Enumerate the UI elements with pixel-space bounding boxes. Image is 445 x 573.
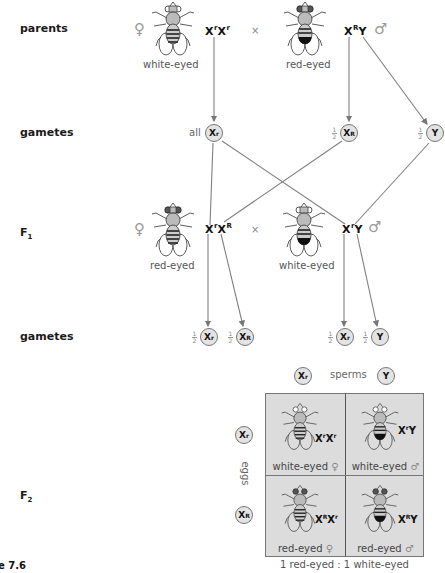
- allele-base: X: [298, 371, 305, 381]
- parent-female-phenotype: white-eyed: [143, 59, 199, 70]
- fly-white-eyed-female-icon: [280, 398, 320, 458]
- parent-male-phenotype: red-eyed: [286, 59, 331, 70]
- gamete-f1-male-xr: Xr: [336, 328, 354, 346]
- allele-sup: r: [226, 24, 229, 32]
- gamete-f1-male-y: Y: [371, 328, 389, 346]
- cell-phenotype: white-eyed ♂: [346, 461, 425, 472]
- gamete-f1-female-xR: XR: [236, 328, 254, 346]
- male-symbol-icon: ♂: [410, 461, 419, 472]
- allele-base: X: [239, 430, 246, 440]
- sperm-y: Y: [377, 367, 395, 385]
- gamete-f1-female-xr: Xr: [200, 328, 218, 346]
- male-symbol-icon: ♂: [368, 220, 381, 235]
- f1-subscript: 1: [28, 233, 33, 241]
- phenotype-text: red-eyed: [357, 543, 402, 554]
- allele-sup: R: [226, 222, 231, 230]
- allele-base: Y: [383, 371, 390, 381]
- punnett-cell-xRxr: XRXr red-eyed ♀: [266, 476, 345, 557]
- phenotype-text: white-eyed: [272, 461, 328, 472]
- cell-genotype: XrXr: [315, 432, 336, 444]
- fly-red-eyed-female-icon: [280, 480, 320, 540]
- allele-base: X: [205, 223, 213, 236]
- allele-base: X: [327, 514, 335, 525]
- punnett-cell-xry: XrY white-eyed ♂: [346, 394, 425, 475]
- row-label-gametes-2: gametes: [20, 330, 74, 343]
- row-label-gametes-1: gametes: [20, 126, 74, 139]
- f1-male-genotype: XrY: [342, 222, 362, 236]
- phenotype-text: red-eyed: [278, 543, 323, 554]
- fraction-half: 12: [192, 331, 197, 344]
- allele-base: Y: [409, 425, 416, 436]
- fly-white-eyed-female-icon: [150, 0, 196, 60]
- f2-subscript: 2: [28, 496, 33, 504]
- parent-male-genotype: XRY: [344, 24, 366, 38]
- fraction-half: 12: [418, 127, 423, 140]
- egg-xR: XR: [235, 506, 253, 524]
- row-label-f1: F1: [20, 226, 32, 241]
- fraction-half: 12: [328, 331, 333, 344]
- allele-base: X: [344, 25, 352, 38]
- gamete-male-xR: XR: [340, 124, 358, 142]
- row-label-f2: F2: [20, 489, 32, 504]
- fly-white-eyed-male-icon: [281, 201, 327, 261]
- fraction-half: 12: [363, 331, 368, 344]
- frac-den: 2: [363, 338, 368, 344]
- allele-sup: r: [211, 334, 214, 341]
- f1-male-phenotype: white-eyed: [279, 260, 335, 271]
- eggs-label: eggs: [240, 461, 251, 485]
- gamete-female-xr: Xr: [205, 124, 223, 142]
- allele-base: Y: [358, 25, 366, 38]
- allele-base: X: [398, 514, 406, 525]
- frac-den: 2: [328, 338, 333, 344]
- f1-female-genotype: XrXR: [205, 222, 232, 236]
- allele-sup: r: [335, 513, 338, 520]
- frac-den: 2: [228, 338, 233, 344]
- sperms-label: sperms: [330, 369, 367, 380]
- allele-base: X: [315, 433, 323, 444]
- fly-red-eyed-male-icon: [360, 480, 400, 540]
- male-symbol-icon: ♂: [405, 543, 414, 554]
- allele-base: X: [343, 128, 350, 138]
- allele-sup: R: [245, 512, 250, 519]
- allele-sup: r: [333, 432, 336, 439]
- gamete-male-y: Y: [426, 124, 444, 142]
- f1-female-phenotype: red-eyed: [150, 260, 195, 271]
- cell-phenotype: white-eyed ♀: [266, 461, 345, 472]
- punnett-cell-xrxr: XrXr white-eyed ♀: [266, 394, 345, 475]
- cell-genotype: XRY: [398, 513, 418, 525]
- f2-ratio: 1 red-eyed : 1 white-eyed: [265, 559, 424, 570]
- allele-base: X: [209, 128, 216, 138]
- allele-base: X: [239, 332, 246, 342]
- allele-base: X: [238, 510, 245, 520]
- cell-phenotype: red-eyed ♂: [346, 543, 425, 554]
- allele-base: X: [315, 514, 323, 525]
- allele-base: X: [204, 332, 211, 342]
- cell-genotype: XRXr: [315, 513, 338, 525]
- female-symbol-icon: ♀: [134, 22, 145, 37]
- allele-base: X: [340, 332, 347, 342]
- allele-sup: r: [216, 130, 219, 137]
- cell-phenotype: red-eyed ♀: [266, 543, 345, 554]
- parent-female-genotype: XrXr: [205, 24, 230, 38]
- fly-red-eyed-male-icon: [282, 0, 328, 60]
- egg-xr: Xr: [235, 426, 253, 444]
- allele-base: X: [342, 223, 350, 236]
- f1-letter: F: [20, 226, 28, 239]
- allele-base: X: [217, 223, 225, 236]
- allele-sup: r: [305, 373, 308, 380]
- allele-base: Y: [410, 514, 417, 525]
- female-symbol-icon: ♀: [326, 543, 333, 554]
- allele-sup: r: [347, 334, 350, 341]
- female-symbol-icon: ♀: [331, 461, 338, 472]
- sperm-xr: Xr: [294, 367, 312, 385]
- figure-caption-fragment: e 7.6: [0, 560, 26, 571]
- punnett-square: XrXr white-eyed ♀ XrY white-eyed ♂ XRXr …: [265, 393, 424, 557]
- cross-symbol-f1: ×: [251, 224, 259, 235]
- punnett-cell-xRy: XRY red-eyed ♂: [346, 476, 425, 557]
- cell-genotype: XrY: [398, 424, 416, 436]
- male-symbol-icon: ♂: [374, 22, 387, 37]
- fly-red-eyed-female-icon: [150, 201, 196, 261]
- f2-letter: F: [20, 489, 28, 502]
- allele-base: X: [205, 25, 213, 38]
- allele-sup: R: [350, 130, 355, 137]
